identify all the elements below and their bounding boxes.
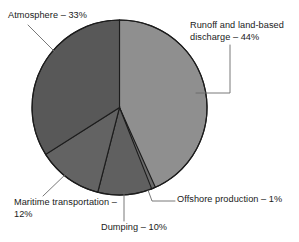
pie-label-runoff: Runoff and land-based discharge – 44% [190,20,294,43]
pie-label-atmosphere: Atmosphere – 33% [8,10,87,22]
pie-label-dumping: Dumping – 10% [101,222,167,234]
pie-label-maritime-transportation: Maritime transportation – 12% [14,197,124,220]
leader-line-maritime [43,172,68,196]
pie-chart-figure: Atmosphere – 33% Runoff and land-based d… [0,0,299,242]
pie-slices [32,20,207,195]
leader-line-offshore [148,190,175,201]
pie-label-offshore-production: Offshore production – 1% [177,194,282,206]
leader-line-atmosphere [28,25,55,52]
